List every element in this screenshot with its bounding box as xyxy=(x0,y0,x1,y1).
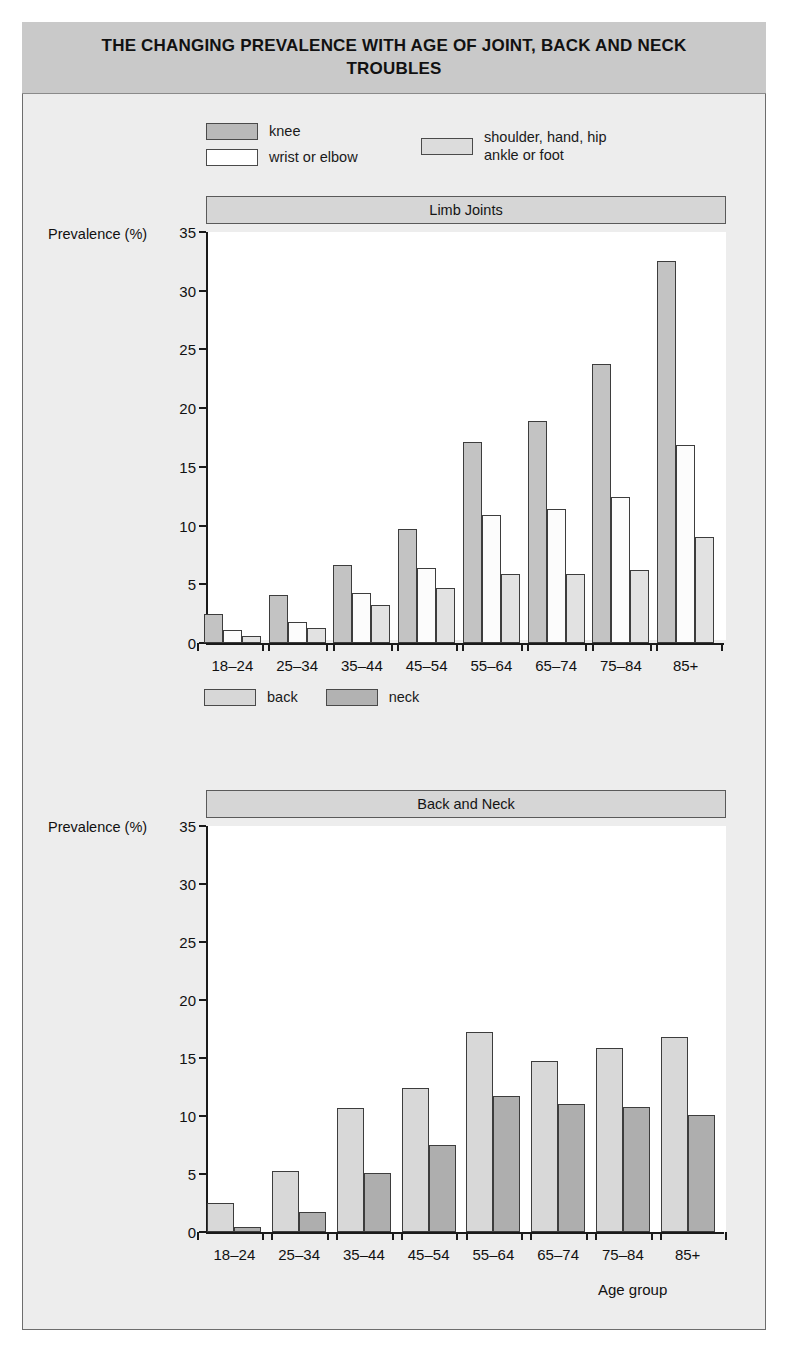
legend-swatch-back xyxy=(204,689,256,706)
y-tick-label: 30 xyxy=(160,282,196,299)
x-tick-mark xyxy=(462,643,464,651)
y-tick-label: 25 xyxy=(160,934,196,951)
y-tick-label: 25 xyxy=(160,341,196,358)
legend-item-neck: neck xyxy=(326,688,420,706)
figure-title: THE CHANGING PREVALENCE WITH AGE OF JOIN… xyxy=(22,35,766,81)
legend-back-neck: back neck xyxy=(204,688,447,706)
x-tick-mark xyxy=(466,1232,468,1240)
legend-item-shoulder: shoulder, hand, hip ankle or foot xyxy=(421,128,607,164)
bar xyxy=(436,588,455,643)
bar xyxy=(466,1032,493,1232)
x-tick-label: 35–44 xyxy=(341,657,383,674)
legend-swatch-neck xyxy=(326,689,378,706)
legend-swatch-knee xyxy=(206,123,258,140)
x-tick-label: 65–74 xyxy=(535,657,577,674)
x-tick-mark xyxy=(397,643,399,651)
x-tick-mark xyxy=(586,1232,588,1240)
y-tick-mark xyxy=(199,941,206,943)
x-tick-mark xyxy=(262,643,264,651)
x-tick-label: 55–64 xyxy=(473,1246,515,1263)
x-tick-label: 25–34 xyxy=(278,1246,320,1263)
x-tick-mark xyxy=(456,643,458,651)
bar xyxy=(611,497,630,643)
bar xyxy=(688,1115,715,1232)
y-tick-label: 20 xyxy=(160,400,196,417)
bar xyxy=(223,630,242,643)
bar xyxy=(234,1227,261,1232)
x-tick-mark xyxy=(660,1232,662,1240)
bar xyxy=(463,442,482,643)
legend-label-back: back xyxy=(267,688,298,706)
y-tick-label: 35 xyxy=(160,224,196,241)
y-tick-label: 35 xyxy=(160,818,196,835)
x-tick-label: 55–64 xyxy=(471,657,513,674)
bar xyxy=(272,1171,299,1232)
bar xyxy=(364,1173,391,1232)
x-tick-mark xyxy=(271,1232,273,1240)
y-tick-mark xyxy=(199,825,206,827)
x-tick-mark xyxy=(521,1232,523,1240)
y-tick-mark xyxy=(199,1115,206,1117)
x-tick-mark xyxy=(721,643,723,651)
x-tick-mark xyxy=(656,643,658,651)
bar xyxy=(352,593,371,643)
bar xyxy=(528,421,547,643)
x-tick-mark xyxy=(197,643,199,651)
y-tick-label: 10 xyxy=(160,1108,196,1125)
bar xyxy=(204,614,223,643)
bar xyxy=(657,261,676,643)
bar xyxy=(288,622,307,643)
bar xyxy=(207,1203,234,1232)
bar xyxy=(307,628,326,643)
x-tick-mark xyxy=(262,1232,264,1240)
chart-1-y-axis-label: Prevalence (%) xyxy=(48,226,147,242)
y-tick-mark xyxy=(199,525,206,527)
y-tick-mark xyxy=(199,348,206,350)
bar xyxy=(269,595,288,643)
x-tick-mark xyxy=(527,643,529,651)
bar xyxy=(417,568,436,643)
x-tick-mark xyxy=(530,1232,532,1240)
legend-label-shoulder: shoulder, hand, hip ankle or foot xyxy=(484,128,607,164)
x-axis-caption: Age group xyxy=(598,1281,667,1298)
bar xyxy=(676,445,695,643)
y-tick-mark xyxy=(199,466,206,468)
x-tick-mark xyxy=(336,1232,338,1240)
y-tick-label: 15 xyxy=(160,458,196,475)
bar xyxy=(623,1107,650,1232)
chart-2-title: Back and Neck xyxy=(206,790,726,818)
x-tick-label: 85+ xyxy=(675,1246,700,1263)
y-tick-label: 0 xyxy=(160,1224,196,1241)
bar xyxy=(493,1096,520,1232)
figure-page: THE CHANGING PREVALENCE WITH AGE OF JOIN… xyxy=(0,0,789,1354)
x-tick-label: 75–84 xyxy=(600,657,642,674)
y-tick-label: 30 xyxy=(160,876,196,893)
x-tick-label: 45–54 xyxy=(408,1246,450,1263)
chart-1-title: Limb Joints xyxy=(206,196,726,224)
x-tick-mark xyxy=(585,643,587,651)
bar xyxy=(398,529,417,643)
x-tick-label: 25–34 xyxy=(276,657,318,674)
x-tick-mark xyxy=(650,643,652,651)
bar xyxy=(501,574,520,643)
y-tick-label: 0 xyxy=(160,635,196,652)
y-tick-mark xyxy=(199,407,206,409)
x-tick-label: 18–24 xyxy=(212,657,254,674)
y-tick-mark xyxy=(199,583,206,585)
y-tick-label: 10 xyxy=(160,517,196,534)
bar xyxy=(661,1037,688,1232)
legend-swatch-shoulder xyxy=(421,138,473,155)
y-tick-mark xyxy=(199,1173,206,1175)
bar xyxy=(482,515,501,643)
x-tick-mark xyxy=(333,643,335,651)
y-tick-mark xyxy=(199,290,206,292)
x-tick-mark xyxy=(197,1232,199,1240)
y-tick-label: 5 xyxy=(160,1166,196,1183)
legend-item-wrist: wrist or elbow xyxy=(206,148,358,166)
y-tick-mark xyxy=(199,1057,206,1059)
bar xyxy=(429,1145,456,1232)
x-tick-mark xyxy=(725,1232,727,1240)
x-tick-label: 85+ xyxy=(673,657,698,674)
bar xyxy=(695,537,714,643)
bar xyxy=(299,1212,326,1232)
